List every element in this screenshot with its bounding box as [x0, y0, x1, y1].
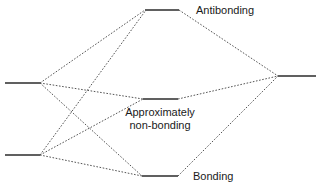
correlation-line-antibonding-to-right: [179, 10, 278, 76]
nonbonding-label-line1: Approximately: [125, 106, 195, 118]
antibonding-label: Antibonding: [196, 4, 254, 16]
correlation-lines-group: [40, 10, 278, 176]
energy-levels-group: [5, 10, 316, 176]
correlation-line-left-upper-to-antibonding: [40, 10, 145, 83]
bonding-label: Bonding: [193, 170, 233, 182]
correlation-line-left-lower-to-antibonding: [40, 10, 146, 155]
molecular-orbital-diagram: Antibonding Approximately non-bonding Bo…: [0, 0, 318, 186]
nonbonding-label-line2: non-bonding: [129, 119, 190, 131]
correlation-line-bonding-to-right: [178, 76, 278, 176]
correlation-line-nonbonding-to-right: [178, 76, 278, 99]
correlation-line-left-lower-to-bonding: [40, 155, 142, 176]
level-labels-group: Antibonding Approximately non-bonding Bo…: [125, 4, 254, 182]
